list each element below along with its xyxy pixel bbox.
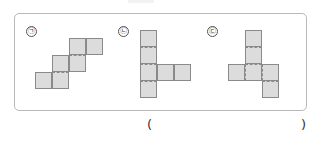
figure-label-2: ㉡ <box>118 26 129 37</box>
net-square <box>52 72 69 89</box>
net-square <box>174 64 191 81</box>
answer-blank[interactable] <box>158 117 298 135</box>
net-square <box>69 38 86 55</box>
figure-label-3: ㉢ <box>207 26 218 37</box>
top-tab-mark <box>128 0 154 3</box>
answer-close-paren: ) <box>301 117 306 132</box>
net-square <box>140 81 157 98</box>
net-square <box>140 64 157 81</box>
net-square <box>228 64 245 81</box>
net-square <box>86 38 103 55</box>
net-square <box>245 30 262 47</box>
net-square <box>140 30 157 47</box>
net-square <box>245 64 262 81</box>
net-square <box>69 55 86 72</box>
net-square <box>245 47 262 64</box>
net-square <box>262 64 279 81</box>
figure-label-1: ㉠ <box>26 26 37 37</box>
net-square <box>140 47 157 64</box>
answer-open-paren: ( <box>147 117 152 132</box>
net-square <box>262 81 279 98</box>
net-square <box>157 64 174 81</box>
net-square <box>35 72 52 89</box>
net-square <box>52 55 69 72</box>
